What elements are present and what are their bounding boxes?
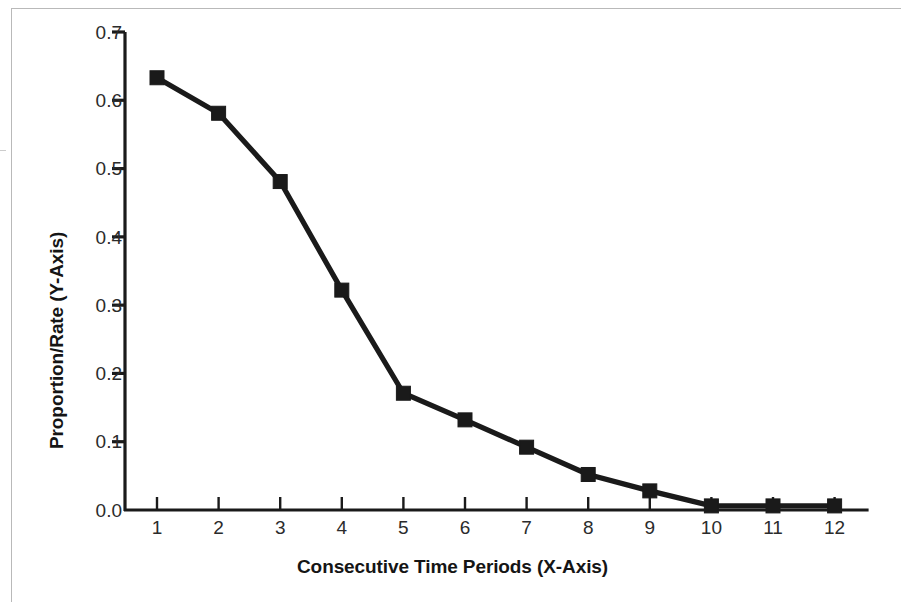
x-tick-label-7: 8: [568, 517, 608, 539]
x-tick-label-8: 9: [630, 517, 670, 539]
y-tick-label-5: 0.2: [76, 363, 122, 385]
data-point-marker: [212, 106, 226, 120]
x-tick-label-5: 6: [445, 517, 485, 539]
data-point-marker: [458, 413, 472, 427]
y-tick-label-1: 0.6: [76, 90, 122, 112]
data-point-marker: [581, 467, 595, 481]
y-tick-label-6: 0.1: [76, 431, 122, 453]
x-tick-label-10: 11: [753, 517, 793, 539]
data-point-marker: [643, 484, 657, 498]
y-axis-title: Proportion/Rate (Y-Axis): [46, 232, 68, 449]
data-point-marker: [828, 499, 842, 513]
x-tick-label-6: 7: [507, 517, 547, 539]
data-point-marker: [766, 499, 780, 513]
data-point-marker: [396, 386, 410, 400]
line-chart-plot: [0, 0, 901, 602]
x-tick-label-2: 3: [260, 517, 300, 539]
x-axis-title: Consecutive Time Periods (X-Axis): [297, 556, 608, 578]
y-tick-label-0: 0.7: [76, 22, 122, 44]
x-tick-label-0: 1: [137, 517, 177, 539]
page-bottom-ghost-text: [26, 590, 546, 598]
y-tick-label-3: 0.4: [76, 227, 122, 249]
data-point-marker: [335, 283, 349, 297]
data-point-marker: [520, 440, 534, 454]
y-tick-label-4: 0.3: [76, 295, 122, 317]
chart-page: 0.7 0.6 0.5 0.4 0.3 0.2 0.1 0.0 12345678…: [0, 0, 901, 602]
x-tick-label-3: 4: [322, 517, 362, 539]
data-point-marker: [150, 71, 164, 85]
x-tick-label-9: 10: [691, 517, 731, 539]
y-tick-label-7: 0.0: [76, 500, 122, 522]
x-tick-label-11: 12: [815, 517, 855, 539]
x-tick-label-1: 2: [199, 517, 239, 539]
x-tick-label-4: 5: [383, 517, 423, 539]
y-tick-label-2: 0.5: [76, 158, 122, 180]
data-point-marker: [704, 499, 718, 513]
data-point-marker: [273, 175, 287, 189]
